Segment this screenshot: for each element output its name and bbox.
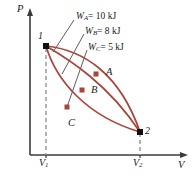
x-tick-label-v1: V1 xyxy=(39,158,49,169)
x-axis-label: V xyxy=(178,160,184,171)
curve-marker-c xyxy=(65,105,70,110)
curve-marker-a xyxy=(94,72,99,77)
work-label-c: WC= 5 kJ xyxy=(88,43,124,53)
work-label-c-symbol: W xyxy=(88,42,96,52)
state-point-1-marker xyxy=(43,43,49,49)
state-point-2-label: 2 xyxy=(145,126,150,136)
curve-label-c: C xyxy=(68,118,75,129)
work-label-a-symbol: W xyxy=(76,11,84,21)
y-axis-label: P xyxy=(17,4,23,15)
y-axis-arrowhead xyxy=(27,8,33,16)
work-label-b-value: = 8 kJ xyxy=(97,26,120,36)
work-label-b: WB= 8 kJ xyxy=(85,27,120,37)
work-label-b-symbol: W xyxy=(85,26,93,36)
state-point-2-marker xyxy=(137,129,143,135)
state-point-1-label: 1 xyxy=(38,31,43,41)
curve-marker-b xyxy=(80,88,85,93)
pv-diagram-figure: P V V1 V2 1 2 WA= 10 kJ WB= 8 kJ WC= 5 k… xyxy=(0,0,196,184)
x-tick-label-v1-subscript: 1 xyxy=(45,161,48,168)
curve-label-a: A xyxy=(106,67,112,78)
x-tick-label-v2-subscript: 2 xyxy=(139,161,142,168)
work-label-a: WA= 10 kJ xyxy=(76,12,116,22)
work-label-c-value: = 5 kJ xyxy=(100,42,123,52)
x-axis-arrowhead xyxy=(180,152,188,158)
x-tick-label-v2: V2 xyxy=(133,158,143,169)
curve-label-b: B xyxy=(91,85,97,96)
work-label-a-value: = 10 kJ xyxy=(88,11,116,21)
leader-lines-group xyxy=(53,20,87,107)
